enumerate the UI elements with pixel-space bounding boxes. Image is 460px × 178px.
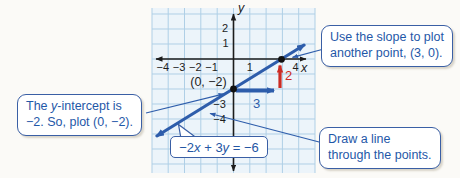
y-tick-2: 2 — [222, 23, 228, 34]
callout-y-intercept-line2: −2. So, plot (0, −2). — [26, 114, 133, 130]
callout-slope: Use the slope to plot another point, (3,… — [321, 25, 453, 67]
x-tick--3: −3 — [173, 62, 186, 73]
y-axis-label: y — [238, 2, 244, 15]
callout-draw-line-line1: Draw a line — [328, 131, 432, 147]
x-tick--1: −1 — [205, 62, 218, 73]
callout-draw-line-line2: through the points. — [328, 147, 432, 163]
x-tick-4: 4 — [292, 62, 298, 73]
y-tick--4: −4 — [213, 114, 226, 125]
callout-y-intercept-line1: The y-intercept is — [26, 98, 133, 114]
point-label-0--2: (0, −2) — [190, 76, 226, 89]
graphing-figure: y x −4 −3 −2 −1 1 4 2 1 −3 −4 (0, −2) 3 … — [0, 0, 460, 178]
callout-slope-line2: another point, (3, 0). — [330, 45, 444, 61]
point-y-intercept — [230, 86, 237, 93]
point-3-0 — [278, 56, 285, 63]
y-tick--3: −3 — [213, 99, 226, 110]
equation-text: −2x + 3y = −6 — [179, 140, 259, 155]
y-tick-1: 1 — [222, 38, 228, 49]
x-tick--2: −2 — [189, 62, 202, 73]
x-tick--4: −4 — [157, 62, 170, 73]
run-label: 3 — [253, 97, 260, 110]
x-tick-1: 1 — [247, 62, 253, 73]
rise-label: 2 — [285, 69, 292, 82]
equation-box: −2x + 3y = −6 — [170, 136, 268, 158]
callout-draw-line: Draw a line through the points. — [319, 127, 441, 169]
callout-y-intercept: The y-intercept is −2. So, plot (0, −2). — [17, 94, 142, 136]
callout-slope-line1: Use the slope to plot — [330, 29, 444, 45]
x-axis-label: x — [301, 62, 307, 75]
